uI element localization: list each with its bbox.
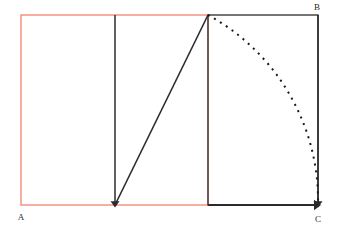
diagonal-radius-line	[115, 15, 208, 205]
vertex-label-b: B	[314, 2, 320, 12]
vertex-label-a: A	[18, 212, 25, 222]
rotation-arc	[208, 15, 318, 205]
target-rectangle	[208, 15, 318, 205]
geometry-diagram: A B C	[0, 0, 339, 229]
vertex-label-c: C	[315, 214, 321, 224]
diagram-canvas: A B C	[0, 0, 339, 229]
